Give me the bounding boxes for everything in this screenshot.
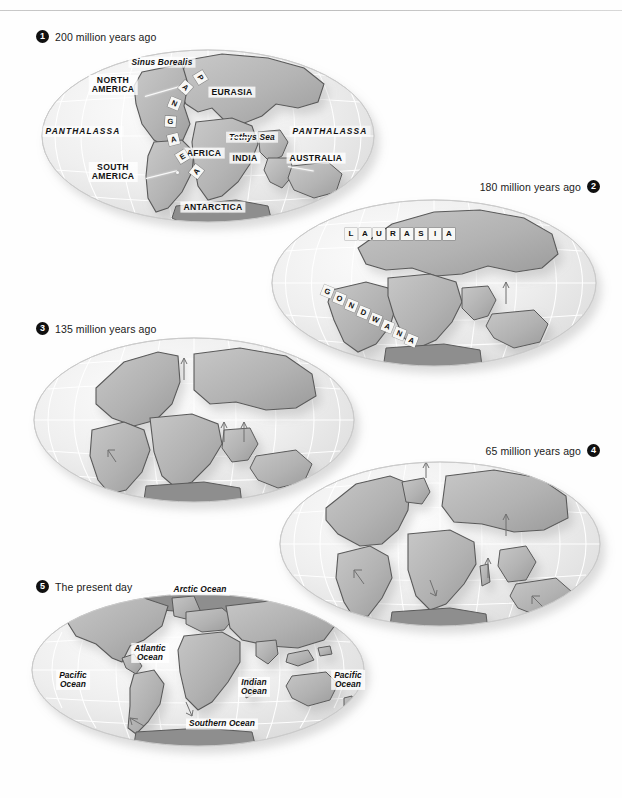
label-south-america-line2: AMERICA [92,171,135,181]
caption-text-5: The present day [55,581,132,593]
label-pacific-ocean-east: Pacific Ocean [331,670,365,690]
pangaea-letter-e: E [175,149,190,164]
gondwana-letter-w: W [368,312,382,326]
pangaea-letter-n: N [167,96,181,110]
gondwana-letter-a1: A [380,319,394,333]
caption-panel-1: 1 200 million years ago [36,30,156,43]
label-india: INDIA [229,153,260,164]
gondwana-letter-o: O [332,291,346,305]
label-antarctica: ANTARCTICA [180,202,245,213]
gondwana-letter-n: N [344,298,358,312]
label-indian-ocean: Indian Ocean [238,677,270,697]
pangaea-letter-a3: A [189,164,204,179]
caption-panel-4: 4 65 million years ago [486,444,600,457]
gondwana-letter-d: D [356,305,370,319]
gondwana-letter-g: G [320,284,334,298]
label-pacific-ocean-west-line2: Ocean [60,679,86,689]
caption-text-1: 200 million years ago [55,31,156,43]
label-panthalassa-west: PANTHALASSA [43,126,124,137]
label-sinus-borealis: Sinus Borealis [129,57,196,68]
label-arctic-ocean: Arctic Ocean [171,584,230,595]
label-indian-ocean-line2: Ocean [241,686,267,696]
label-atlantic-ocean-line2: Ocean [137,652,163,662]
figure-root: 1 200 million years ago [0,0,622,798]
pangaea-letter-p: P [193,70,208,85]
label-pangaea: P A N G A E A [150,72,220,202]
caption-text-4: 65 million years ago [486,445,581,457]
label-pacific-ocean-east-line2: Ocean [335,679,361,689]
pangaea-letter-a1: A [178,80,194,96]
panel-number-badge-1: 1 [36,30,49,43]
label-australia: AUSTRALIA [287,153,346,164]
panel-number-badge-4: 4 [587,444,600,457]
caption-text-2: 180 million years ago [480,181,581,193]
top-divider-rule [0,10,622,11]
label-south-america: SOUTH AMERICA [89,162,138,182]
label-atlantic-ocean: Atlantic Ocean [131,643,169,663]
gondwana-letter-n2: N [392,326,406,340]
label-north-america-line2: AMERICA [92,84,135,94]
gondwana-letter-a2: A [404,333,418,347]
pangaea-letter-a2: A [167,133,180,146]
leader-tethys-sea [228,137,250,138]
caption-text-3: 135 million years ago [55,323,156,335]
panel-number-badge-2: 2 [587,180,600,193]
label-panthalassa-east: PANTHALASSA [290,126,371,137]
pangaea-letter-g: G [165,116,177,128]
label-laurasia: LAURASIA [345,228,455,240]
label-north-america: NORTH AMERICA [89,75,138,95]
label-southern-ocean: Southern Ocean [186,718,258,729]
label-pacific-ocean-west: Pacific Ocean [56,670,90,690]
caption-panel-2: 2 180 million years ago [480,180,600,193]
